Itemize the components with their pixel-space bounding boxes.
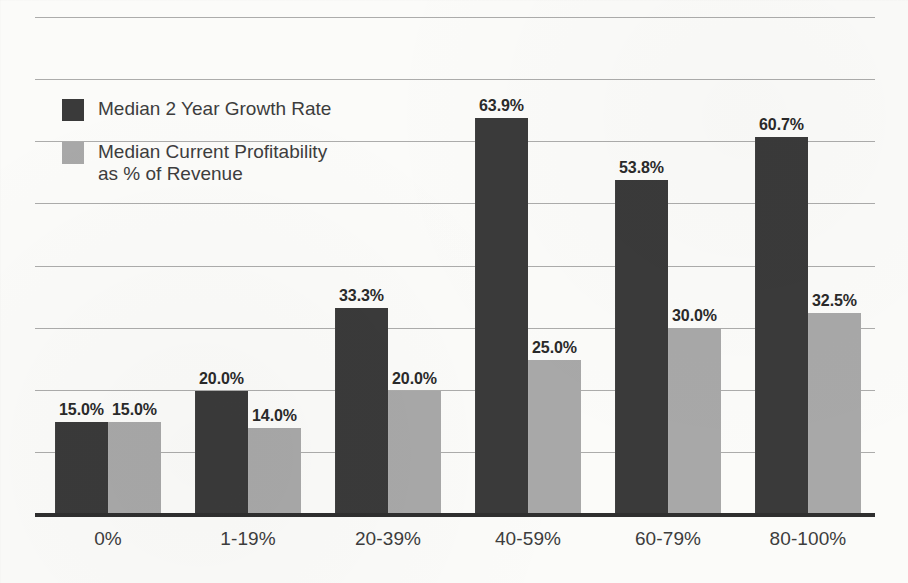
bar-value-label: 63.9% — [479, 97, 524, 115]
bar-series1[interactable]: 32.5% — [808, 313, 861, 515]
bar-value-label: 14.0% — [252, 407, 297, 425]
bar-fill — [55, 422, 108, 515]
bar-series0[interactable]: 63.9% — [475, 118, 528, 515]
bar-group: 33.3% 20.0% — [335, 17, 441, 515]
bar-fill — [248, 428, 301, 515]
bar-chart: 15.0% 15.0% 20.0% 14.0% 33.3% — [0, 0, 908, 583]
bar-series0[interactable]: 20.0% — [195, 391, 248, 515]
bar-value-label: 20.0% — [199, 370, 244, 388]
bar-group: 63.9% 25.0% — [475, 17, 581, 515]
legend-label: Median Current Profitability as % of Rev… — [98, 141, 327, 186]
bar-value-label: 60.7% — [759, 116, 804, 134]
legend-item-profitability[interactable]: Median Current Profitability as % of Rev… — [62, 141, 331, 186]
bar-series0[interactable]: 15.0% — [55, 422, 108, 515]
bar-series1[interactable]: 25.0% — [528, 360, 581, 516]
bar-group: 15.0% 15.0% — [55, 17, 161, 515]
bar-fill — [335, 308, 388, 515]
bar-fill — [108, 422, 161, 515]
x-axis-line — [35, 513, 875, 517]
bar-group: 20.0% 14.0% — [195, 17, 301, 515]
bar-value-label: 25.0% — [532, 339, 577, 357]
bar-series0[interactable]: 33.3% — [335, 308, 388, 515]
bar-group: 60.7% 32.5% — [755, 17, 861, 515]
bar-fill — [475, 118, 528, 515]
bar-fill — [615, 180, 668, 515]
legend-item-growth-rate[interactable]: Median 2 Year Growth Rate — [62, 98, 331, 121]
bar-value-label: 33.3% — [339, 287, 384, 305]
bar-series1[interactable]: 30.0% — [668, 328, 721, 515]
chart-legend: Median 2 Year Growth Rate Median Current… — [62, 98, 331, 206]
legend-label: Median 2 Year Growth Rate — [98, 98, 331, 120]
x-axis-labels: 0% 1-19% 20-39% 40-59% 60-79% 80-100% — [35, 528, 875, 570]
bar-fill — [755, 137, 808, 515]
x-axis-tick-label: 60-79% — [615, 528, 721, 550]
x-axis-tick-label: 80-100% — [755, 528, 861, 550]
bar-fill — [808, 313, 861, 515]
x-axis-tick-label: 1-19% — [195, 528, 301, 550]
bar-series1[interactable]: 14.0% — [248, 428, 301, 515]
x-axis-tick-label: 20-39% — [335, 528, 441, 550]
bars-layer: 15.0% 15.0% 20.0% 14.0% 33.3% — [35, 17, 875, 515]
bar-fill — [388, 391, 441, 515]
legend-swatch-icon — [62, 142, 84, 164]
legend-swatch-icon — [62, 99, 84, 121]
bar-series0[interactable]: 53.8% — [615, 180, 668, 515]
bar-fill — [528, 360, 581, 516]
bar-series1[interactable]: 15.0% — [108, 422, 161, 515]
bar-fill — [195, 391, 248, 515]
bar-value-label: 53.8% — [619, 159, 664, 177]
bar-value-label: 20.0% — [392, 370, 437, 388]
bar-series0[interactable]: 60.7% — [755, 137, 808, 515]
bar-value-label: 15.0% — [59, 401, 104, 419]
bar-series1[interactable]: 20.0% — [388, 391, 441, 515]
bar-fill — [668, 328, 721, 515]
bar-value-label: 15.0% — [112, 401, 157, 419]
bar-group: 53.8% 30.0% — [615, 17, 721, 515]
x-axis-tick-label: 0% — [55, 528, 161, 550]
bar-value-label: 30.0% — [672, 307, 717, 325]
bar-value-label: 32.5% — [812, 292, 857, 310]
x-axis-tick-label: 40-59% — [475, 528, 581, 550]
